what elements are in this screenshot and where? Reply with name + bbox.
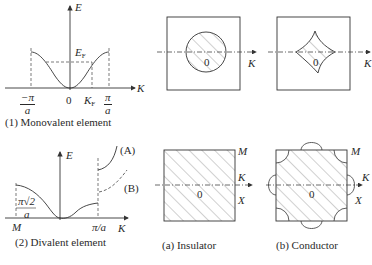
- pi-over-a-label: π/a: [92, 222, 106, 233]
- k-axis-label: K: [137, 83, 144, 94]
- band-b-curve: [99, 170, 127, 192]
- pi-sqrt2-denominator: a: [24, 209, 30, 220]
- neg-pi-over-a: −πa: [20, 92, 35, 116]
- conductor-origin-label: 0: [309, 189, 315, 200]
- e-axis-label-2: E: [66, 150, 73, 161]
- fermi-energy-subscript: F: [82, 52, 86, 60]
- pi-denominator: a: [105, 105, 111, 117]
- fermi-k-label: KF: [84, 95, 95, 108]
- conductor-diagram: [263, 137, 362, 234]
- neg-pi-numerator: −π: [20, 92, 35, 105]
- insulator-k-label: K: [238, 172, 245, 183]
- conductor-m-label: M: [351, 146, 360, 157]
- monovalent-band-plot: [5, 6, 135, 90]
- fermi-circle-diagram: [157, 17, 256, 90]
- fermi-diamond-diagram: [268, 17, 370, 90]
- neg-pi-denominator: a: [25, 105, 31, 117]
- insulator-origin-label: 0: [197, 189, 203, 200]
- origin-label: 0: [66, 95, 72, 106]
- insulator-m-label: M: [238, 146, 247, 157]
- insulator-diagram: [155, 150, 252, 221]
- e-axis-label: E: [75, 2, 82, 13]
- circle-origin-label: 0: [204, 57, 210, 68]
- caption-divalent: (2) Divalent element: [15, 237, 106, 248]
- diagram-canvas: [0, 0, 372, 265]
- diamond-k-label: K: [364, 58, 371, 69]
- band-a-curve: [98, 146, 117, 170]
- conductor-x-label: X: [355, 195, 362, 206]
- fermi-energy-label: EF: [75, 47, 86, 60]
- diamond-origin-label: 0: [313, 57, 319, 68]
- band-b-label: (B): [124, 183, 139, 194]
- k-axis-label-2: K: [118, 223, 125, 234]
- pi-over-a: πa: [104, 92, 112, 116]
- caption-conductor: (b) Conductor: [276, 240, 338, 251]
- caption-insulator: (a) Insulator: [162, 240, 216, 251]
- circle-k-label: K: [248, 58, 255, 69]
- m-point-label: M: [12, 222, 21, 233]
- fermi-k-subscript: F: [91, 100, 95, 108]
- fermi-energy-symbol: E: [75, 46, 82, 58]
- band-a-label: (A): [120, 145, 135, 156]
- caption-monovalent: (1) Monovalent element: [5, 117, 111, 128]
- conductor-k-label: K: [362, 172, 369, 183]
- pi-numerator: π: [104, 92, 112, 105]
- insulator-x-label: X: [238, 195, 245, 206]
- pi-sqrt2-numerator: π√2: [18, 196, 35, 207]
